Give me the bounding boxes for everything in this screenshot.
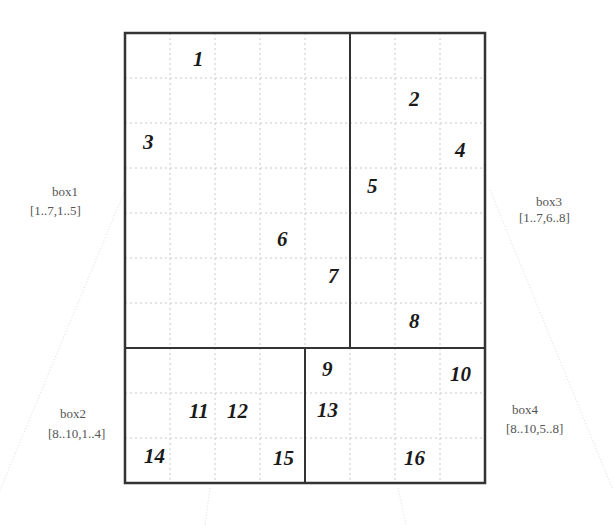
box4-range: [8..10,5..8] [506,421,563,436]
cell-number-7: 7 [328,264,340,288]
box1-name: box1 [52,184,78,199]
cell-number-8: 8 [409,309,420,333]
cell-number-13: 13 [317,398,338,422]
cell-number-11: 11 [189,399,209,423]
cell-number-2: 2 [408,87,420,111]
box2-range: [8..10,1..4] [48,426,105,441]
connector-lines [0,190,613,525]
box1-range: [1..7,1..5] [30,203,81,218]
box-labels: box1 [1..7,1..5] box3 [1..7,6..8] box2 [… [30,184,570,441]
sudoku-box-diagram: 1 2 3 4 5 6 7 8 9 10 11 12 13 14 15 16 b… [0,0,613,525]
cell-number-9: 9 [322,357,333,381]
cell-number-10: 10 [450,362,472,386]
cell-number-15: 15 [273,446,294,470]
cell-number-4: 4 [454,138,466,162]
box3-range: [1..7,6..8] [519,210,570,225]
cell-number-16: 16 [404,446,426,470]
box2-name: box2 [60,406,86,421]
box3-name: box3 [536,194,562,209]
cell-number-5: 5 [367,174,378,198]
cell-number-14: 14 [144,444,165,468]
cell-number-6: 6 [277,227,288,251]
cell-number-1: 1 [193,47,204,71]
cell-number-12: 12 [227,399,249,423]
cell-number-3: 3 [142,130,154,154]
box4-name: box4 [512,402,539,417]
